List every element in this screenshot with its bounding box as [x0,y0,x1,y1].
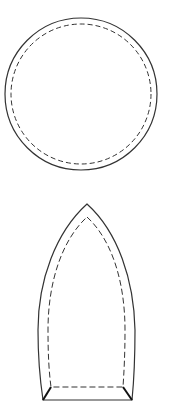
circle-seam-line [11,24,151,164]
circle-pattern [5,18,157,170]
pattern-diagram [0,0,169,403]
circle-outline [5,18,157,170]
arch-outline [38,204,135,400]
pointed-arch-pattern [38,204,135,400]
arch-seam-line [48,217,125,387]
arch-corner-left [43,387,51,400]
arch-corner-right [123,387,132,400]
